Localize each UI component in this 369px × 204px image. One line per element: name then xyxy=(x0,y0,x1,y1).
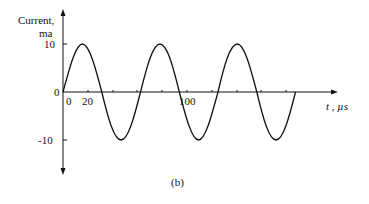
x-tick-label-100: 100 xyxy=(179,95,196,107)
y-tick-label-neg10: -10 xyxy=(38,134,53,146)
x-tick-label-0: 0 xyxy=(66,95,72,107)
y-axis-arrow-up-icon xyxy=(61,9,66,16)
figure-caption: (b) xyxy=(171,176,184,189)
y-tick-label-10: 10 xyxy=(44,38,56,50)
x-axis-label: t , µs xyxy=(326,100,348,112)
y-axis-label-line1: Current, xyxy=(18,14,55,26)
y-tick-label-0: 0 xyxy=(54,86,60,98)
y-axis-arrow-down-icon xyxy=(61,168,66,175)
sine-wave-chart: Current, ma 10 0 -10 0 20 100 t , µs (b) xyxy=(0,0,369,204)
x-axis-arrow-icon xyxy=(331,90,338,95)
x-tick-label-20: 20 xyxy=(82,95,94,107)
